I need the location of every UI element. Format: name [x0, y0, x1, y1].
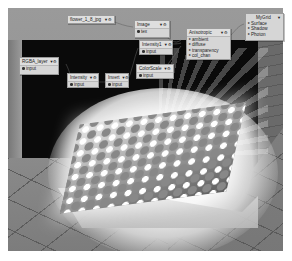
node-intensity1[interactable]: Intensity1 ▼⚙ input — [139, 40, 173, 55]
node-mygrid[interactable]: MyGrid ▼ ▸Surface ▸Shadow ▸Photon — [245, 13, 284, 41]
port-photon[interactable]: ▸Photon — [246, 32, 283, 38]
port-dot-icon — [137, 30, 140, 33]
node-title: Image — [137, 22, 150, 28]
node-options-icon[interactable]: ▼⚙ — [220, 30, 228, 36]
node-flower-texture[interactable]: flower_1_8_jpg ▼⚙ — [67, 15, 115, 24]
node-options-icon[interactable]: ▼⚙ — [163, 66, 171, 72]
port-input[interactable]: input — [68, 82, 98, 88]
node-options-icon[interactable]: ▼⚙ — [159, 22, 167, 28]
node-title: RGBA_layer — [22, 59, 48, 65]
node-colorscale[interactable]: ColorScale ▼⚙ input — [136, 64, 174, 79]
node-options-icon[interactable]: ▼⚙ — [50, 59, 58, 65]
node-title: ColorScale — [139, 66, 161, 72]
port-input[interactable]: input — [20, 66, 58, 72]
node-anisotropic[interactable]: Anisotropic ▼⚙ ▸ambient ▸diffuse ▸transp… — [186, 28, 231, 60]
node-options-icon[interactable]: ▼⚙ — [122, 75, 130, 81]
port-input[interactable]: input — [140, 49, 172, 55]
port-arrow-icon: ▸ — [189, 53, 191, 59]
port-dot-icon — [108, 83, 111, 86]
node-title: Invert — [108, 75, 120, 81]
node-options-icon[interactable]: ▼⚙ — [104, 17, 112, 23]
node-title: Intensity — [70, 75, 87, 81]
port-input[interactable]: input — [137, 73, 173, 79]
port-col-chan[interactable]: ▸col_chan — [187, 53, 230, 59]
node-options-icon[interactable]: ▼ — [277, 15, 281, 21]
node-options-icon[interactable]: ▼⚙ — [89, 75, 97, 81]
node-options-icon[interactable]: ▼⚙ — [164, 42, 172, 48]
node-image[interactable]: Image ▼⚙ tex — [134, 20, 170, 38]
node-intensity[interactable]: Intensity ▼⚙ input — [67, 73, 99, 88]
port-dot-icon — [139, 74, 142, 77]
port-tex[interactable]: tex — [135, 29, 169, 35]
node-title: flower_1_8_jpg — [70, 17, 101, 23]
node-title: Anisotropic — [189, 30, 212, 36]
node-title: Intensity1 — [142, 42, 162, 48]
port-arrow-icon: ▸ — [248, 32, 250, 38]
port-dot-icon — [70, 83, 73, 86]
port-dot-icon — [22, 67, 25, 70]
port-dot-icon — [142, 50, 145, 53]
node-rgba-layer[interactable]: RGBA_layer ▼⚙ input — [19, 57, 59, 75]
port-input[interactable]: input — [106, 82, 128, 88]
node-title: MyGrid — [256, 15, 271, 21]
node-invert[interactable]: Invert ▼⚙ input — [105, 73, 129, 88]
